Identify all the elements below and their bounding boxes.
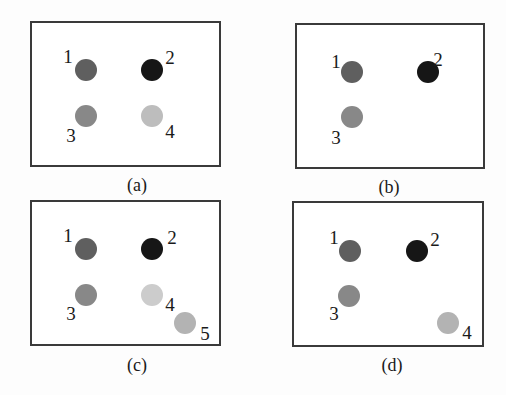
point-label: 4 — [462, 323, 472, 342]
panel-a — [30, 21, 221, 167]
point-2 — [406, 240, 428, 262]
point-4 — [141, 105, 163, 127]
point-label: 1 — [329, 228, 339, 247]
point-label: 4 — [165, 122, 175, 141]
point-label: 1 — [63, 226, 73, 245]
point-2 — [141, 238, 163, 260]
point-label: 2 — [167, 228, 177, 247]
point-label: 2 — [165, 48, 175, 67]
point-1 — [339, 240, 361, 262]
point-label: 2 — [430, 230, 440, 249]
panel-caption: (b) — [379, 178, 400, 196]
point-4 — [141, 284, 163, 306]
point-3 — [75, 105, 97, 127]
panel-caption: (a) — [127, 176, 147, 194]
point-label: 2 — [433, 50, 443, 69]
point-3 — [75, 284, 97, 306]
point-label: 3 — [329, 304, 339, 323]
point-label: 3 — [66, 126, 76, 145]
point-3 — [341, 106, 363, 128]
point-1 — [341, 61, 363, 83]
point-1 — [75, 59, 97, 81]
point-label: 1 — [331, 52, 341, 71]
point-label: 3 — [66, 304, 76, 323]
point-1 — [75, 238, 97, 260]
point-label: 4 — [165, 295, 175, 314]
point-5 — [174, 312, 196, 334]
point-label: 1 — [63, 47, 73, 66]
panel-b — [295, 23, 485, 169]
panel-caption: (d) — [382, 356, 403, 374]
point-label: 5 — [200, 324, 210, 343]
panel-caption: (c) — [127, 356, 147, 374]
point-label: 3 — [331, 128, 341, 147]
point-2 — [141, 59, 163, 81]
point-3 — [338, 285, 360, 307]
point-4 — [437, 312, 459, 334]
